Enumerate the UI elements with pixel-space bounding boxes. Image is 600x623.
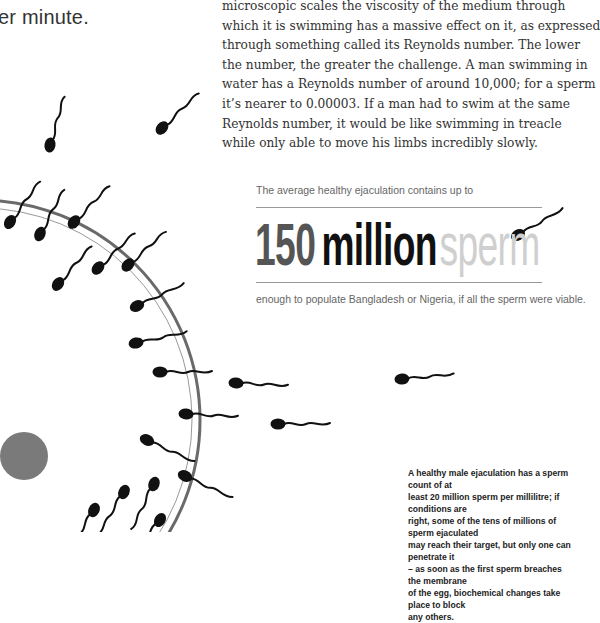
body-line: Reynolds number, it would be like swimmi…: [222, 115, 570, 135]
body-line: through something called its Reynolds nu…: [222, 36, 570, 56]
body-line: water has a Reynolds number of around 10…: [222, 75, 570, 95]
body-line: microscopic scales the viscosity of the …: [222, 0, 570, 17]
stat-intro: The average healthy ejaculation contains…: [256, 184, 542, 196]
egg-membrane-outer: [0, 200, 200, 532]
body-line: it’s nearer to 0.00003. If a man had to …: [222, 95, 570, 115]
stat-number: 150: [255, 211, 315, 278]
heading-fragment: er minute.: [0, 6, 89, 29]
stat-callout: The average healthy ejaculation contains…: [256, 184, 542, 196]
body-line: while only able to move his limbs incred…: [222, 134, 570, 154]
caption-line: A healthy male ejaculation has a sperm c…: [408, 467, 574, 491]
divider: [256, 207, 542, 208]
caption: A healthy male ejaculation has a sperm c…: [408, 467, 574, 623]
caption-line: any others.: [408, 611, 574, 623]
stat-subject: sperm: [439, 211, 539, 278]
divider: [256, 282, 542, 283]
caption-line: right, some of the tens of millions of s…: [408, 515, 574, 539]
caption-line: least 20 million sperm per millilitre; i…: [408, 491, 574, 515]
stat-outro: enough to populate Bangladesh or Nigeria…: [256, 293, 586, 305]
body-paragraph: microscopic scales the viscosity of the …: [222, 0, 570, 154]
stat-headline: 150millionsperm: [255, 212, 540, 278]
caption-line: – as soon as the first sperm breaches th…: [408, 563, 574, 587]
caption-line: of the egg, biochemical changes take pla…: [408, 587, 574, 611]
body-line: the number, the greater the challenge. A…: [222, 56, 570, 76]
body-line: which it is swimming has a massive effec…: [222, 17, 570, 37]
stat-unit: million: [321, 211, 437, 278]
egg-nucleus: [0, 432, 48, 480]
caption-line: may reach their target, but only one can…: [408, 539, 574, 563]
